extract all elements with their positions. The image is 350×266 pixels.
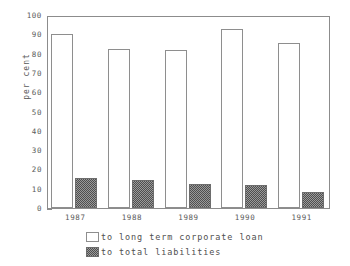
y-axis-tick-label: 70 [0,69,42,78]
bar-group [278,15,324,208]
bar-group [165,15,211,208]
x-axis-tick-label: 1988 [109,213,155,222]
legend-label: to total liabilities [101,247,221,257]
y-axis-tick-label: 100 [0,11,42,20]
y-axis-tick-label: 0 [0,204,42,213]
bar-long-term-corporate-loan [278,43,300,208]
bar-chart: per cent 0102030405060708090100 19871988… [0,0,350,266]
bar-total-liabilities [189,184,211,208]
bar-long-term-corporate-loan [165,50,187,208]
y-axis-tick-label: 80 [0,50,42,59]
y-axis-tick-label: 30 [0,146,42,155]
bar-total-liabilities [75,178,97,208]
bar-long-term-corporate-loan [221,29,243,208]
x-axis-tick-label: 1991 [279,213,325,222]
y-axis-tick-label: 40 [0,127,42,136]
y-axis-tick-label: 20 [0,165,42,174]
x-axis-tick-label: 1990 [222,213,268,222]
legend-item: to long term corporate loan [86,229,263,244]
y-axis-tick-label: 50 [0,108,42,117]
legend-label: to long term corporate loan [101,232,263,242]
bar-total-liabilities [302,192,324,208]
bar-long-term-corporate-loan [51,34,73,208]
legend-swatch-light-icon [86,232,99,242]
bar-total-liabilities [245,185,267,208]
x-axis-tick-label: 1987 [52,213,98,222]
bar-group [221,15,267,208]
plot-area [47,16,330,209]
bar-long-term-corporate-loan [108,49,130,208]
legend-swatch-dark-icon [86,247,99,257]
y-axis-tick-label: 60 [0,88,42,97]
legend-item: to total liabilities [86,244,263,259]
y-axis-tick-label: 10 [0,185,42,194]
bar-group [108,15,154,208]
chart-legend: to long term corporate loan to total lia… [86,229,263,259]
bar-total-liabilities [132,180,154,208]
bar-group [51,15,97,208]
x-axis-tick-label: 1989 [166,213,212,222]
y-axis-tick-label: 90 [0,30,42,39]
